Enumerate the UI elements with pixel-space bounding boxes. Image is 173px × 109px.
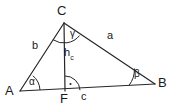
vertex-label-c: C	[57, 4, 66, 17]
side-label-a: a	[107, 30, 113, 41]
vertex-label-f: F	[60, 92, 68, 105]
side-label-b: b	[32, 40, 38, 51]
side-ac-line	[20, 23, 64, 91]
vertex-label-a: A	[5, 84, 14, 97]
angle-label-alpha: α	[29, 77, 35, 87]
side-label-c: c	[81, 91, 87, 102]
altitude-label-hc-subscript: c	[70, 54, 74, 61]
altitude-label-hc: hc	[64, 47, 74, 60]
angle-arc-gamma	[53, 36, 80, 43]
vertex-label-b: B	[158, 76, 167, 89]
side-ab-line	[20, 84, 155, 91]
right-angle-dot-f	[69, 83, 71, 85]
angle-label-gamma: γ	[70, 29, 75, 39]
geometry-figure: A B C F a b c hc α β γ	[0, 0, 173, 109]
angle-label-beta: β	[134, 69, 140, 79]
